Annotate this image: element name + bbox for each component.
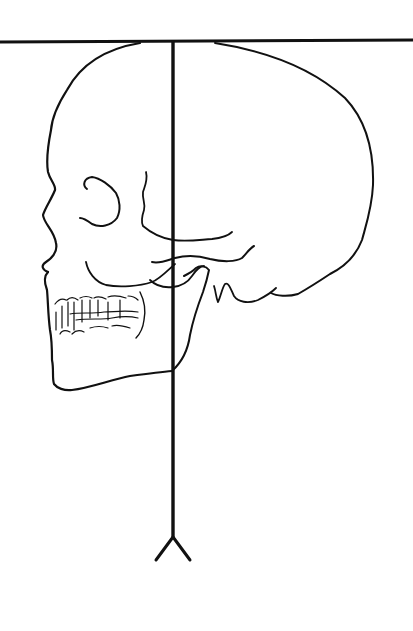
mastoid-process — [214, 284, 276, 302]
skull-outline-back — [215, 43, 373, 296]
zygomatic-arch — [152, 246, 254, 263]
mandible-ramus — [172, 266, 209, 371]
orbit — [80, 177, 120, 226]
skull-outline-cranium — [43, 43, 140, 272]
vertical-axis-line — [156, 42, 190, 560]
teeth — [55, 292, 145, 338]
maxilla-contour — [86, 262, 175, 286]
lateral-orbital-wall — [142, 172, 232, 241]
horizontal-reference-line — [0, 40, 413, 42]
skull-diagram: Skull in lateral view with reference lin… — [0, 0, 413, 631]
